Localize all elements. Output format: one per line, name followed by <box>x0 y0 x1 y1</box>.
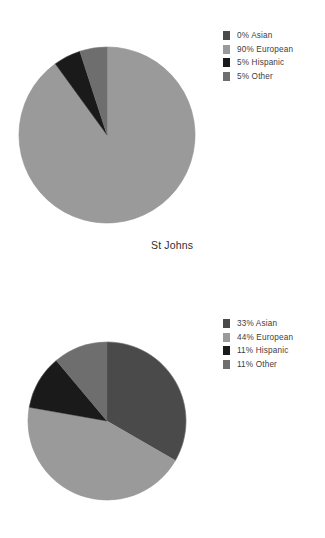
legend-swatch-european <box>223 333 230 342</box>
legend-swatch-european <box>223 45 230 54</box>
legend-item: 44% European <box>223 331 293 345</box>
legend-item: 90% European <box>223 43 293 57</box>
pie-chart-st-johns <box>16 44 198 226</box>
legend-label-european: 44% European <box>237 331 293 345</box>
legend-label-hispanic: 5% Hispanic <box>237 56 284 70</box>
legend-label-other: 11% Other <box>237 358 277 372</box>
legend-swatch-asian <box>223 31 230 40</box>
legend-item: 5% Hispanic <box>223 56 293 70</box>
legend-label-asian: 0% Asian <box>237 29 272 43</box>
legend-item: 0% Asian <box>223 29 293 43</box>
legend-label-asian: 33% Asian <box>237 317 277 331</box>
legend-item: 11% Hispanic <box>223 344 293 358</box>
legend-swatch-hispanic <box>223 58 230 67</box>
chart-block-st-johns: 0% Asian 90% European 5% Hispanic 5% Oth… <box>0 0 325 270</box>
chart-block-nearby-public-school: 33% Asian 44% European 11% Hispanic 11% … <box>0 288 325 538</box>
legend-swatch-other <box>223 72 230 81</box>
legend-item: 5% Other <box>223 70 293 84</box>
legend-item: 11% Other <box>223 358 293 372</box>
legend-swatch-asian <box>223 319 230 328</box>
legend-swatch-other <box>223 360 230 369</box>
legend-st-johns: 0% Asian 90% European 5% Hispanic 5% Oth… <box>223 29 293 83</box>
legend-label-european: 90% European <box>237 43 293 57</box>
legend-label-hispanic: 11% Hispanic <box>237 344 288 358</box>
legend-swatch-hispanic <box>223 346 230 355</box>
legend-nearby-public-school: 33% Asian 44% European 11% Hispanic 11% … <box>223 317 293 371</box>
legend-item: 33% Asian <box>223 317 293 331</box>
legend-label-other: 5% Other <box>237 70 273 84</box>
chart-caption-st-johns: St Johns <box>151 239 193 251</box>
pie-chart-nearby-public-school <box>25 339 189 503</box>
